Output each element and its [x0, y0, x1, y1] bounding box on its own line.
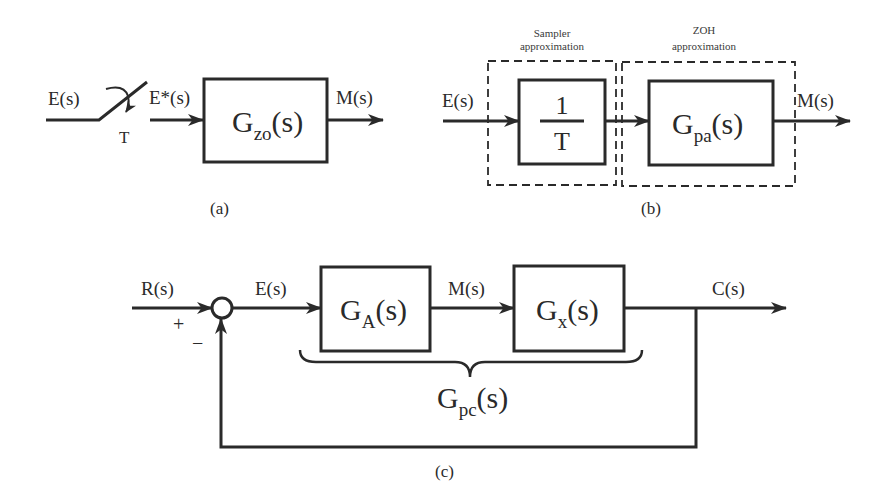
c-plus-sign: +	[173, 313, 184, 335]
a-caption: (a)	[210, 199, 229, 218]
diagram-svg: E(s) T E*(s) Gzo(s) M(s) (a) Sampler app…	[0, 0, 886, 499]
c-error-label: E(s)	[255, 278, 287, 300]
b-sampler-numerator: 1	[556, 91, 569, 120]
summing-junction-icon	[212, 298, 232, 318]
b-sampler-group-label-2: approximation	[520, 40, 585, 52]
a-hold-block	[204, 79, 327, 162]
b-output-label: M(s)	[797, 90, 834, 112]
b-caption: (b)	[641, 199, 661, 218]
block-diagram-figure: E(s) T E*(s) Gzo(s) M(s) (a) Sampler app…	[0, 0, 886, 499]
b-sampler-group-label-1: Sampler	[534, 27, 571, 39]
b-zoh-group-label-2: approximation	[672, 40, 737, 52]
c-output-label: C(s)	[712, 278, 745, 300]
a-sampler-period-label: T	[119, 128, 130, 147]
b-sampler-denominator: T	[554, 127, 570, 156]
diagram-b: Sampler approximation ZOH approximation …	[442, 24, 850, 218]
c-reference-label: R(s)	[141, 278, 174, 300]
diagram-a: E(s) T E*(s) Gzo(s) M(s) (a)	[46, 79, 383, 218]
c-intermediate-label: M(s)	[448, 278, 485, 300]
c-grouping-brace	[300, 350, 642, 377]
a-input-label: E(s)	[48, 88, 80, 110]
b-input-label: E(s)	[442, 90, 474, 112]
a-output-label: M(s)	[336, 87, 373, 109]
diagram-c: R(s) + − E(s) GA(s) M(s) Gx(s) C(s) Gpc(…	[132, 266, 786, 481]
c-caption: (c)	[435, 462, 454, 481]
b-zoh-group-label-1: ZOH	[693, 24, 716, 36]
c-minus-sign: −	[192, 332, 203, 354]
a-sampled-label: E*(s)	[149, 87, 190, 109]
c-brace-label: Gpc(s)	[437, 381, 508, 420]
